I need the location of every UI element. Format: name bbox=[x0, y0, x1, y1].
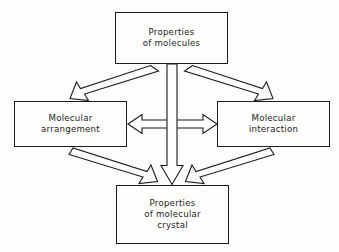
node-molecular-interaction: Molecular interaction bbox=[217, 101, 330, 147]
node-right-line-2: interaction bbox=[249, 124, 298, 135]
node-left-line-2: arrangement bbox=[41, 124, 100, 135]
node-molecular-arrangement: Molecular arrangement bbox=[14, 101, 127, 147]
node-left-line-1: Molecular bbox=[49, 113, 93, 124]
node-properties-of-molecular-crystal: Properties of molecular crystal bbox=[116, 185, 229, 244]
node-right-line-1: Molecular bbox=[252, 113, 296, 124]
arrow-top-to-left bbox=[70, 66, 159, 101]
diagram-canvas: Properties of molecules Molecular arrang… bbox=[0, 0, 339, 252]
arrow-top-to-right bbox=[185, 66, 274, 101]
arrow-left-to-bottom bbox=[69, 148, 158, 184]
node-bottom-line-2: of molecular bbox=[144, 209, 201, 220]
node-bottom-line-1: Properties bbox=[150, 198, 196, 209]
node-properties-of-molecules: Properties of molecules bbox=[115, 12, 228, 64]
node-top-line-1: Properties bbox=[149, 27, 195, 38]
node-top-line-2: of molecules bbox=[143, 38, 201, 49]
arrow-right-to-bottom bbox=[186, 148, 275, 184]
node-bottom-line-3: crystal bbox=[157, 220, 188, 231]
